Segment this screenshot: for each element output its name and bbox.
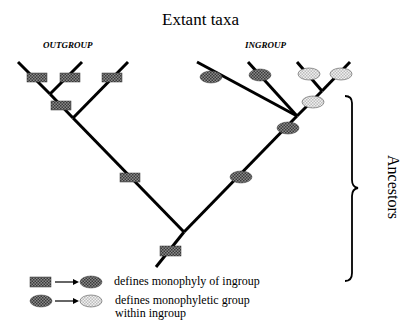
arrow-icon	[73, 298, 79, 304]
dark-ellipse-marker	[230, 171, 252, 183]
hatched-rectangle-marker	[160, 246, 181, 256]
legend-symbols	[30, 276, 102, 307]
hatched-rectangle-marker	[60, 73, 80, 82]
ingroup-label: INGROUP	[245, 40, 286, 50]
hatched-rectangle-marker	[27, 73, 47, 82]
legend-hatched-rectangle	[30, 277, 51, 287]
light-ellipse-marker	[330, 68, 352, 80]
light-ellipse-marker	[302, 96, 324, 108]
legend-text-2-line2: within ingroup	[115, 307, 250, 320]
legend-text-1: defines monophyly of ingroup	[114, 275, 260, 288]
dark-ellipse-marker	[249, 69, 271, 81]
hatched-rectangle-marker	[120, 173, 140, 182]
ancestors-label: Ancestors	[384, 147, 402, 227]
outgroup-character-markers	[27, 73, 181, 256]
light-ellipse-marker	[298, 68, 320, 80]
legend-text-2: defines monophyletic group within ingrou…	[115, 294, 250, 320]
arrow-icon	[73, 279, 79, 285]
hatched-rectangle-marker	[51, 101, 71, 110]
dark-ellipse-marker	[200, 71, 222, 83]
hatched-rectangle-marker	[102, 73, 122, 82]
legend-dark-ellipse	[80, 276, 102, 288]
ancestors-brace	[345, 96, 358, 281]
dark-ellipse-marker	[277, 122, 299, 134]
legend-light-ellipse	[80, 295, 102, 307]
diagram-title: Extant taxa	[0, 10, 397, 30]
tree-branches	[18, 62, 350, 267]
outgroup-label: OUTGROUP	[43, 40, 93, 50]
legend-dark-ellipse	[30, 295, 52, 307]
